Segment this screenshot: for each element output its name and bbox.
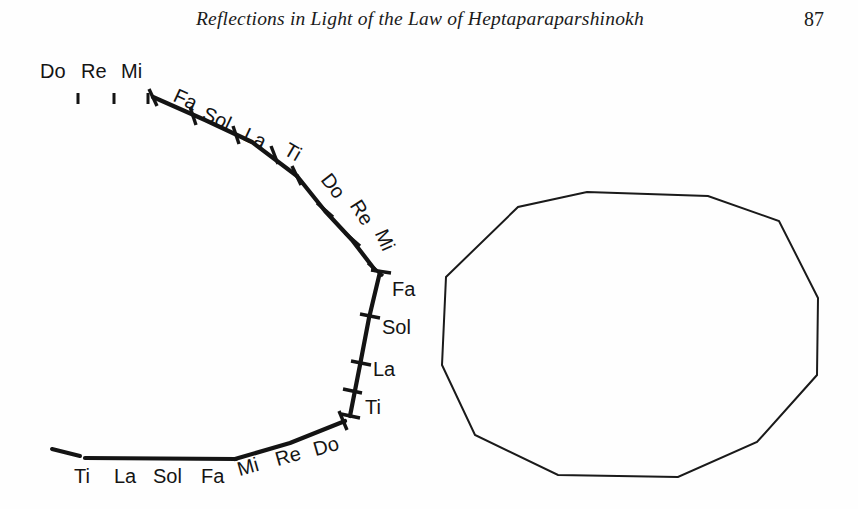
tick-vert-ti [341,414,360,418]
bottom-flat-line [85,458,236,459]
tick-mid-do [317,203,333,217]
note-label-slope-fa: Fa [170,84,201,115]
note-label-rise-re: Re [273,442,304,471]
tick-mid-re [345,233,360,246]
tick-mid-mi [368,263,383,276]
note-label-flat-fa: Fa [201,465,224,488]
note-label-rise-mi: Mi [235,453,262,481]
note-label-mid-re: Re [345,196,378,230]
note-label-top-mi: Mi [121,60,142,83]
top-tick-marks [78,93,148,104]
bottom-left-dash [52,449,80,456]
tick-slope-la [271,146,278,164]
note-label-vert-la: La [373,358,395,381]
note-label-vert-sol: Sol [382,316,411,339]
page-number: 87 [804,8,824,31]
note-label-slope-sol: Sol [199,102,235,135]
note-label-mid-do: Do [316,169,350,203]
tick-vert-sol [351,361,371,365]
note-label-vert-ti: Ti [365,396,381,419]
running-head: Reflections in Light of the Law of Hepta… [0,8,858,36]
note-label-top-re: Re [81,60,107,83]
tick-slope-ti [292,166,301,185]
note-label-flat-la: La [114,465,136,488]
note-label-top-do: Do [40,60,66,83]
book-page: { "header": { "title": "Reflections in L… [0,0,858,509]
tick-rise-end [339,411,347,430]
tick-slope-start [149,89,157,106]
polygon-outline [442,192,818,477]
tick-vert-fa [360,314,380,318]
page-title: Reflections in Light of the Law of Hepta… [196,8,644,30]
bottom-flat-group [52,449,236,459]
tick-vert-top [371,270,391,273]
note-label-flat-ti: Ti [74,465,90,488]
note-label-flat-sol: Sol [153,465,182,488]
tick-slope-sol [233,126,239,144]
note-label-slope-la: La [240,123,270,153]
tick-vert-la [343,389,362,393]
note-label-slope-ti: Ti [280,138,305,166]
note-label-mid-mi: Mi [370,226,400,255]
note-label-vert-fa: Fa [392,278,415,301]
note-label-rise-do: Do [311,432,342,461]
vertical-line [350,272,380,416]
